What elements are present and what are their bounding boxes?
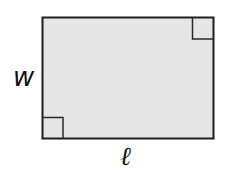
- rectangle-diagram: [0, 0, 229, 172]
- width-label: w: [13, 64, 34, 90]
- length-label: ℓ: [120, 143, 131, 169]
- rectangle-shape: [43, 18, 214, 139]
